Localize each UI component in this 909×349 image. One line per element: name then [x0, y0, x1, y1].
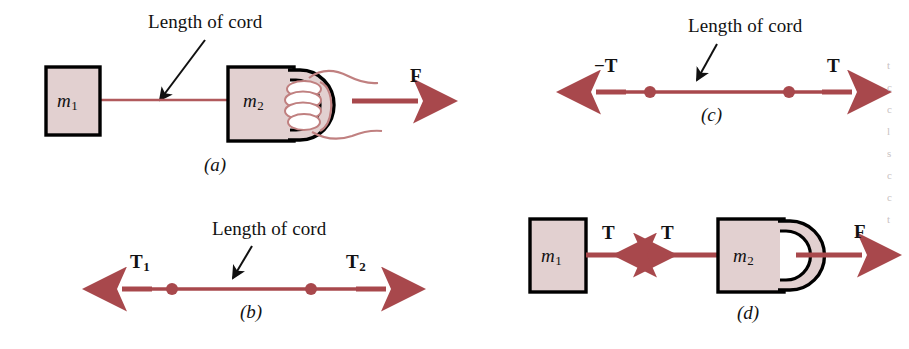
annotation-length-of-cord-c: Length of cord: [688, 16, 802, 35]
mass-symbol: m: [243, 90, 257, 111]
force-label-T1-b: T1: [130, 252, 150, 273]
mass-symbol: m: [541, 245, 555, 266]
edge-fragment: s: [887, 142, 909, 164]
cord-dot-b-left: [166, 283, 178, 295]
panel-a-graphics: [46, 40, 418, 141]
force-label-T-right-d: T: [602, 223, 615, 242]
edge-fragment: t: [887, 208, 909, 230]
force-label-T-left-d: T: [661, 223, 674, 242]
force-symbol: T: [346, 251, 359, 272]
mass-label-m1-a: m1: [57, 91, 78, 112]
mass-label-m1-d: m1: [541, 246, 562, 267]
mass-label-m2-a: m2: [243, 91, 264, 112]
force-subscript: 1: [143, 259, 150, 274]
leader-line-c: [697, 44, 717, 80]
mass-subscript: 1: [71, 98, 78, 113]
panel-label-c: (c): [701, 105, 722, 124]
figure-vector-layer: [0, 0, 909, 349]
edge-fragment: t: [887, 54, 909, 76]
leader-line-a: [160, 40, 205, 100]
force-label-F-d: F: [854, 222, 866, 241]
edge-fragment: l: [887, 120, 909, 142]
force-subscript: 2: [359, 259, 366, 274]
edge-fragment: c: [887, 76, 909, 98]
page-edge-text-fragments: t c c l s c c t: [887, 54, 909, 230]
mass-subscript: 2: [747, 253, 754, 268]
force-label-F-a: F: [410, 66, 422, 85]
panel-d-graphics: [530, 219, 862, 292]
panel-label-b: (b): [240, 302, 262, 321]
force-label-T-c: T: [827, 56, 840, 75]
force-symbol: T: [130, 251, 143, 272]
edge-fragment: c: [887, 186, 909, 208]
force-label-T2-b: T2: [346, 252, 366, 273]
annotation-length-of-cord-a: Length of cord: [148, 12, 262, 31]
mass-subscript: 1: [555, 253, 562, 268]
force-label-negT-c: −T: [594, 56, 618, 75]
cord-dot-c-right: [783, 86, 795, 98]
edge-fragment: c: [887, 164, 909, 186]
physics-figure: Length of cord m1 m2 F (a) Length of cor…: [0, 0, 909, 349]
cord-dot-b-right: [305, 283, 317, 295]
edge-fragment: c: [887, 98, 909, 120]
leader-line-b: [233, 246, 252, 278]
panel-label-a: (a): [204, 155, 226, 174]
panel-c-graphics: [596, 44, 852, 98]
panel-label-d: (d): [737, 303, 759, 322]
mass-symbol: m: [733, 245, 747, 266]
cord-dot-c-left: [644, 86, 656, 98]
annotation-length-of-cord-b: Length of cord: [212, 219, 326, 238]
mass-symbol: m: [57, 90, 71, 111]
mass-subscript: 2: [257, 98, 264, 113]
mass-label-m2-d: m2: [733, 246, 754, 267]
